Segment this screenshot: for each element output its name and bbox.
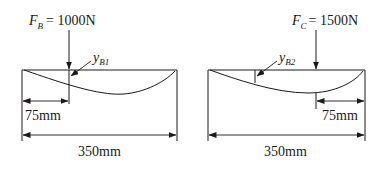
deflection-b2-pointer (257, 61, 277, 76)
force-b-symbol: F (28, 13, 38, 28)
force-c-label: FC= 1500N (291, 13, 358, 31)
deflection-curve (24, 70, 175, 94)
dim-75-label: 75mm (25, 108, 61, 123)
deflection-b2-label: yB2 (277, 50, 296, 67)
deflection-b2-subscript: B2 (285, 57, 295, 67)
dim-350-label: 350mm (78, 144, 121, 159)
beam-deflection-diagrams: FB= 1000N yB1 75mm 350mm FC= 1500N (0, 0, 383, 169)
left-diagram: FB= 1000N yB1 75mm 350mm (22, 13, 177, 159)
force-b-subscript: B (38, 21, 44, 31)
force-b-value: = 1000N (46, 13, 96, 28)
force-c-subscript: C (301, 21, 308, 31)
dim-350-label: 350mm (264, 144, 307, 159)
right-diagram: FC= 1500N yB2 75mm 350mm (208, 13, 365, 159)
force-c-value: = 1500N (309, 13, 359, 28)
force-c-symbol: F (291, 13, 301, 28)
deflection-b1-label: yB1 (91, 50, 109, 67)
dim-75-label: 75mm (322, 108, 358, 123)
deflection-b1-pointer (71, 61, 91, 76)
deflection-curve (210, 70, 363, 93)
force-b-label: FB= 1000N (28, 13, 96, 31)
deflection-b1-subscript: B1 (99, 57, 109, 67)
